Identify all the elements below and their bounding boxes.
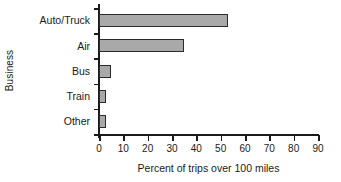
x-axis-tick [196, 135, 198, 141]
x-axis-tick [148, 135, 150, 141]
x-axis-tick [318, 135, 320, 141]
x-axis-tick [245, 135, 247, 141]
y-axis-tick-label: Train [18, 84, 94, 109]
x-axis-tick [221, 135, 223, 141]
x-axis-tick-label: 10 [118, 144, 129, 154]
x-axis-tick-label: 60 [239, 144, 250, 154]
y-axis-tick [94, 84, 100, 86]
bar-slot [99, 8, 318, 33]
x-axis-line [98, 134, 319, 136]
bar-auto-truck [99, 14, 228, 27]
x-axis-tick [99, 135, 101, 141]
x-axis-tick [172, 135, 174, 141]
y-axis-tick-label: Air [18, 33, 94, 58]
bar-slot [99, 58, 318, 83]
plot-area: 0102030405060708090 [99, 8, 318, 134]
x-axis-tick-label: 20 [142, 144, 153, 154]
x-axis-tick [294, 135, 296, 141]
y-axis-title: Business [2, 0, 18, 140]
x-axis-tick [269, 135, 271, 141]
bar-air [99, 39, 184, 52]
x-axis-tick [123, 135, 125, 141]
y-axis-title-text: Business [5, 49, 16, 90]
y-axis-tick [94, 33, 100, 35]
x-axis-title: Percent of trips over 100 miles [99, 162, 318, 174]
x-axis-tick-label: 50 [215, 144, 226, 154]
y-axis-tick [94, 109, 100, 111]
y-axis-tick [94, 58, 100, 60]
y-axis-tick [94, 8, 100, 10]
x-axis-tick-label: 70 [264, 144, 275, 154]
bar-slot [99, 84, 318, 109]
x-axis-tick-label: 0 [96, 144, 102, 154]
bar-slot [99, 109, 318, 134]
y-axis-tick-label: Auto/Truck [18, 8, 94, 33]
bar-bus [99, 65, 111, 78]
y-axis-tick-label: Other [18, 109, 94, 134]
x-axis-tick-label: 90 [312, 144, 323, 154]
bar-chart: Business Auto/Truck Air Bus Train Other [0, 0, 341, 182]
x-axis-tick-label: 80 [288, 144, 299, 154]
bar-slot [99, 33, 318, 58]
y-axis-tick-label: Bus [18, 58, 94, 83]
x-axis-tick-label: 30 [166, 144, 177, 154]
bar-other [99, 115, 106, 128]
bar-series [99, 8, 318, 134]
x-axis-tick-label: 40 [191, 144, 202, 154]
y-axis-tick-labels: Auto/Truck Air Bus Train Other [18, 8, 94, 134]
bar-train [99, 90, 106, 103]
